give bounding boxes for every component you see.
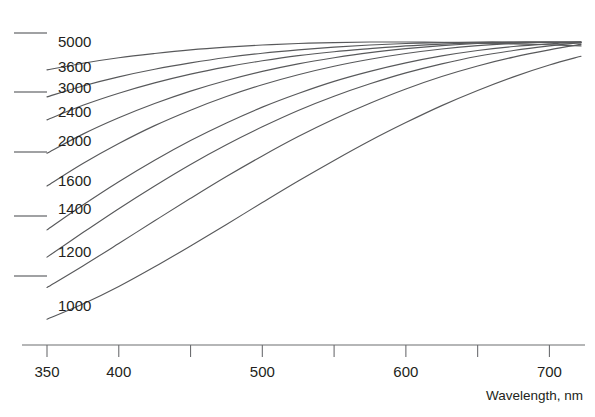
curve-label-3600k: 3600	[58, 58, 91, 75]
curve-label-5000k: 5000	[58, 33, 91, 50]
curve-label-1400k: 1400	[58, 200, 91, 217]
curve-label-2400k: 2400	[58, 103, 91, 120]
x-tick-label-400: 400	[106, 363, 131, 380]
x-tick-label-350: 350	[34, 363, 59, 380]
curve-label-2000k: 2000	[58, 132, 91, 149]
curve-label-1600k: 1600	[58, 172, 91, 189]
curve-label-3000k: 3000	[58, 79, 91, 96]
x-tick-label-600: 600	[393, 363, 418, 380]
curve-label-1200k: 1200	[58, 243, 91, 260]
x-tick-label-500: 500	[250, 363, 275, 380]
x-axis-title: Wavelength, nm	[486, 388, 583, 403]
x-tick-label-700: 700	[537, 363, 562, 380]
spectral-power-distribution-chart: 350400500600700 500036003000240020001600…	[0, 0, 595, 417]
curve-label-1000k: 1000	[58, 297, 91, 314]
